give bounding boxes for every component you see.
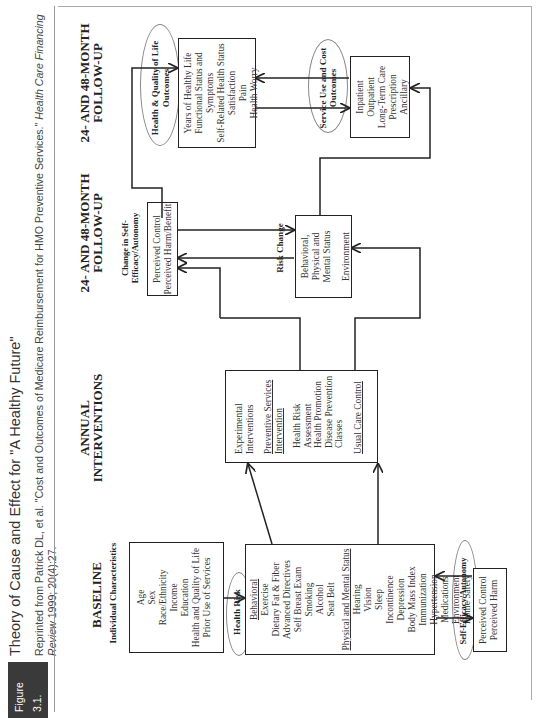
rotated-page: Figure 3.1. SOURCE: Theory of Cause and … [0, 0, 547, 718]
connector-lines [0, 0, 547, 718]
